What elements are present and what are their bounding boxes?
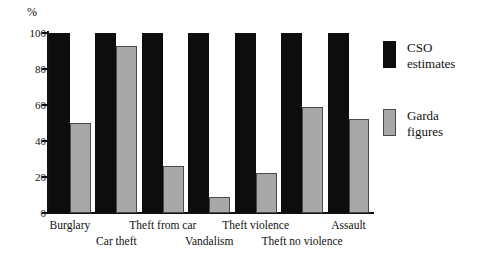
bar-garda-figures: [349, 119, 370, 213]
plot-area: [49, 33, 374, 213]
bar-group: [188, 33, 230, 213]
legend-label-line: Garda: [407, 108, 443, 124]
bar-cso-estimates: [281, 33, 302, 213]
bar-garda-figures: [256, 173, 277, 213]
bar-garda-figures: [163, 166, 184, 213]
legend-item: Gardafigures: [383, 108, 443, 139]
gray-swatch: [383, 109, 396, 136]
y-axis-tick-label: 20: [12, 172, 46, 183]
legend-label: CSOestimates: [407, 40, 455, 71]
y-axis-tick-label: 60: [12, 100, 46, 111]
bar-chart: % 100806040200 BurglaryCar theftTheft fr…: [0, 0, 483, 259]
bar-group: [142, 33, 184, 213]
black-swatch: [383, 41, 396, 68]
legend-label: Gardafigures: [407, 108, 443, 139]
legend-label-line: figures: [407, 124, 443, 140]
x-axis-label: Theft from car: [129, 219, 196, 231]
bar-group: [281, 33, 323, 213]
bar-group: [235, 33, 277, 213]
x-axis-label: Burglary: [50, 219, 91, 231]
x-axis-label: Theft no violence: [262, 235, 343, 247]
x-axis-label: Vandalism: [185, 235, 234, 247]
y-axis-tick-label: 80: [12, 64, 46, 75]
bar-cso-estimates: [235, 33, 256, 213]
bar-garda-figures: [116, 46, 137, 213]
y-axis-unit-label: %: [27, 6, 37, 18]
bar-garda-figures: [209, 197, 230, 213]
y-axis-tick-label: 40: [12, 136, 46, 147]
x-axis-label: Assault: [331, 219, 366, 231]
bar-cso-estimates: [142, 33, 163, 213]
bar-group: [49, 33, 91, 213]
legend-label-line: CSO: [407, 40, 455, 56]
y-axis-tick-label: 100: [12, 28, 46, 39]
bar-garda-figures: [70, 123, 91, 213]
x-axis-label: Car theft: [96, 235, 137, 247]
bar-cso-estimates: [49, 33, 70, 213]
bar-cso-estimates: [328, 33, 349, 213]
legend-label-line: estimates: [407, 56, 455, 72]
bar-garda-figures: [302, 107, 323, 213]
legend-item: CSOestimates: [383, 40, 455, 71]
bar-group: [328, 33, 370, 213]
bar-cso-estimates: [95, 33, 116, 213]
bar-group: [95, 33, 137, 213]
x-axis-label: Theft violence: [222, 219, 289, 231]
y-axis-tick-label: 0: [12, 208, 46, 219]
bar-cso-estimates: [188, 33, 209, 213]
